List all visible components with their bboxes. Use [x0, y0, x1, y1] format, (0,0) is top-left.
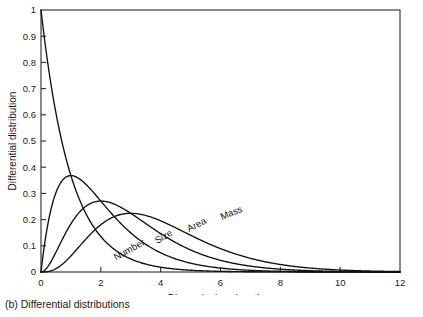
y-tick-label: 1: [31, 4, 36, 15]
y-tick-label: 0.5: [23, 135, 36, 146]
y-tick-label: 0.9: [23, 31, 36, 42]
y-axis-tick-labels: 00.10.20.30.40.50.60.70.80.91: [23, 4, 36, 277]
x-tick-label: 6: [218, 277, 223, 288]
distribution-curves: [41, 10, 400, 272]
y-tick-label: 0.3: [23, 188, 36, 199]
x-axis-tick-labels: 024681012: [38, 277, 405, 288]
x-tick-label: 12: [395, 277, 406, 288]
x-tick-label: 8: [278, 277, 283, 288]
y-tick-label: 0.6: [23, 109, 36, 120]
x-tick-label: 2: [98, 277, 103, 288]
y-tick-label: 0.1: [23, 240, 36, 251]
curve-label-mass: Mass: [219, 203, 244, 222]
curve-label-area: Area: [185, 215, 209, 234]
plot-frame: [41, 10, 400, 272]
curve-size: [41, 176, 400, 272]
curve-number: [41, 10, 400, 272]
x-tick-label: 4: [158, 277, 163, 288]
axis-titles: Dimensionless length, zDifferential dist…: [7, 92, 273, 295]
y-tick-label: 0.8: [23, 57, 36, 68]
x-tick-label: 0: [38, 277, 43, 288]
differential-distribution-chart: 024681012 00.10.20.30.40.50.60.70.80.91 …: [0, 0, 423, 295]
y-tick-label: 0: [31, 266, 36, 277]
x-tick-label: 10: [335, 277, 346, 288]
y-tick-label: 0.7: [23, 83, 36, 94]
y-tick-label: 0.4: [23, 162, 36, 173]
figure-caption: (b) Differential distributions: [5, 298, 130, 310]
y-axis-title: Differential distribution: [7, 92, 18, 191]
plot-box: [41, 10, 400, 272]
y-axis-ticks: [41, 36, 46, 246]
x-axis-title: Dimensionless length, z: [168, 293, 274, 295]
curve-mass: [41, 213, 400, 272]
y-tick-label: 0.2: [23, 214, 36, 225]
figure-differential-distributions: 024681012 00.10.20.30.40.50.60.70.80.91 …: [0, 0, 423, 317]
